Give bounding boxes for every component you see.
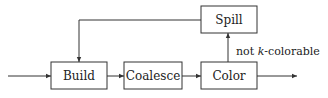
node-build-label: Build bbox=[63, 69, 95, 83]
edge-label-not-k-colorable: not k-colorable bbox=[236, 45, 320, 58]
node-color: Color bbox=[201, 62, 257, 89]
node-color-label: Color bbox=[212, 69, 245, 83]
node-build: Build bbox=[51, 62, 107, 89]
node-spill-label: Spill bbox=[215, 13, 243, 27]
node-spill: Spill bbox=[201, 6, 257, 33]
register-allocation-diagram: Build Coalesce Color not k-colorable Spi… bbox=[0, 0, 328, 98]
spill-to-build-arrow bbox=[79, 20, 201, 62]
node-coalesce-label: Coalesce bbox=[126, 69, 180, 83]
node-coalesce: Coalesce bbox=[124, 62, 182, 89]
